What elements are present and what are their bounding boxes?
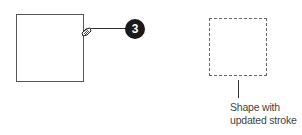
callout-badge: 3 [125,19,145,39]
caption-leader-line [238,80,239,98]
callout-line [91,28,127,29]
caption-line-1: Shape with [230,101,297,114]
caption-line-2: updated stroke [230,114,297,127]
updated-shape [209,18,267,76]
caption: Shape with updated stroke [230,101,297,127]
original-shape [16,14,84,82]
